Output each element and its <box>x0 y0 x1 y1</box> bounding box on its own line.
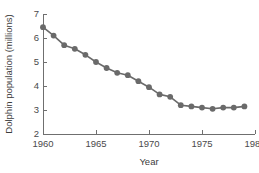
chart-axes <box>43 14 255 134</box>
data-point <box>51 33 57 39</box>
data-point <box>231 105 237 111</box>
data-point <box>125 72 131 78</box>
data-point <box>210 106 216 112</box>
data-point <box>83 52 89 58</box>
x-tick-label: 1960 <box>32 138 53 149</box>
y-tick-label: 7 <box>34 8 39 19</box>
data-point <box>104 65 110 71</box>
x-tick-label: 1980 <box>244 138 259 149</box>
y-axis-tick-labels: 234567 <box>34 8 39 139</box>
data-point <box>136 78 142 84</box>
data-point <box>72 46 78 52</box>
y-tick-label: 5 <box>34 56 39 67</box>
data-point <box>93 59 99 65</box>
data-point <box>242 104 248 110</box>
data-point <box>199 105 205 111</box>
x-tick-label: 1975 <box>191 138 212 149</box>
data-point <box>189 104 195 110</box>
dolphin-population-chart: 234567 19601965197019751980 Dolphin popu… <box>0 0 259 173</box>
y-tick-label: 6 <box>34 32 39 43</box>
data-point <box>157 92 163 98</box>
data-point <box>178 102 184 108</box>
data-point-markers <box>40 24 247 111</box>
data-point <box>146 84 152 90</box>
chart-tick-marks <box>43 14 255 134</box>
data-point <box>220 105 226 111</box>
chart-canvas: 234567 19601965197019751980 Dolphin popu… <box>0 0 259 173</box>
data-point <box>114 70 120 76</box>
x-tick-label: 1970 <box>138 138 159 149</box>
y-tick-label: 3 <box>34 104 39 115</box>
y-tick-label: 4 <box>34 80 39 91</box>
x-axis-title: Year <box>139 156 158 167</box>
series-polyline <box>43 27 244 109</box>
y-axis-title: Dolphin population (millions) <box>3 14 14 133</box>
x-tick-label: 1965 <box>85 138 106 149</box>
data-point <box>61 42 67 48</box>
data-point <box>167 94 173 100</box>
data-series-line <box>43 27 244 109</box>
axis-spine <box>43 14 255 134</box>
x-axis-tick-labels: 19601965197019751980 <box>32 138 259 149</box>
data-point <box>40 24 46 30</box>
